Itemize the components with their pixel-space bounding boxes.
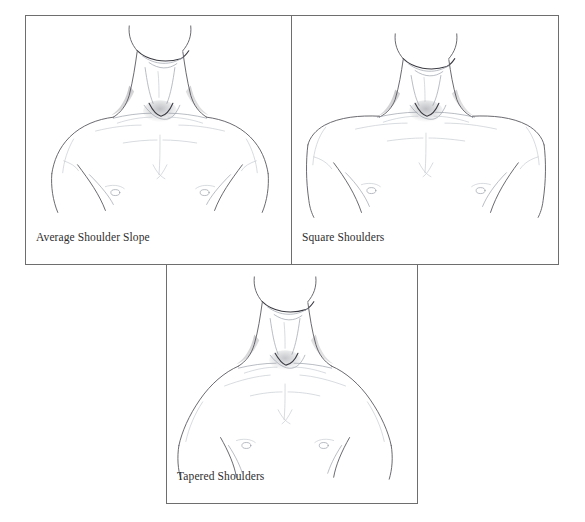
panel-square-shoulders: Square Shoulders xyxy=(291,15,559,265)
panel-average-shoulder-slope: Average Shoulder Slope xyxy=(25,15,292,265)
figure-root: Average Shoulder Slope xyxy=(0,0,585,522)
illustration-tapered-shoulders xyxy=(167,265,417,503)
panel-caption-tapered: Tapered Shoulders xyxy=(177,470,264,483)
illustration-square-shoulders xyxy=(292,16,558,264)
illustration-average-shoulder-slope xyxy=(26,16,291,264)
panel-tapered-shoulders: Tapered Shoulders xyxy=(166,264,418,504)
panel-caption-square: Square Shoulders xyxy=(302,231,384,244)
panel-caption-average: Average Shoulder Slope xyxy=(36,231,150,244)
